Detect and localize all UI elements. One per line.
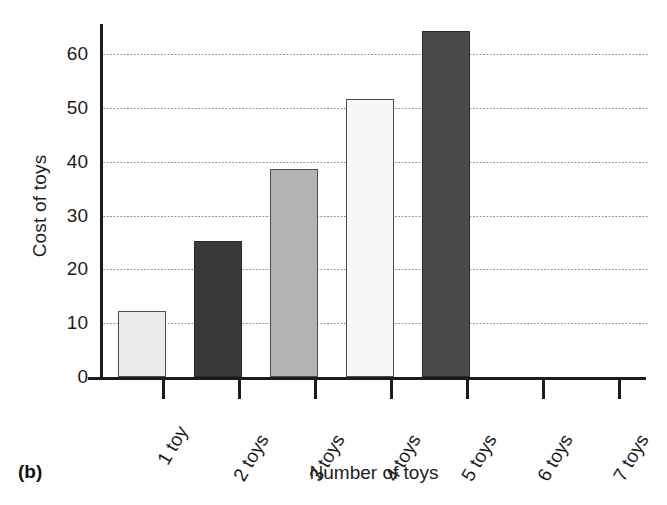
x-tick-3 [390,377,393,399]
y-tick-label-0: 0 [44,367,88,386]
x-tick-0 [162,377,165,399]
gridline-60 [100,54,648,55]
x-tick-5 [542,377,545,399]
bar-chart-figure: Cost of toys 0102030405060 1 toy2 toys3 … [0,0,667,505]
x-tick-4 [466,377,469,399]
y-tick-label-60: 60 [44,44,88,63]
x-tick-1 [238,377,241,399]
y-axis-line [100,24,103,378]
x-tick-6 [618,377,621,399]
bar-1-toy [118,311,166,377]
y-tick-label-50: 50 [44,98,88,117]
bar-3-toys [270,169,318,377]
y-tick-label-10: 10 [44,313,88,332]
y-tick-label-20: 20 [44,259,88,278]
bar-5-toys [422,31,470,377]
panel-caption: (b) [18,461,42,483]
x-tick-2 [314,377,317,399]
x-axis-line [88,377,646,380]
y-tick-label-30: 30 [44,206,88,225]
bar-2-toys [194,241,242,377]
x-axis-title: Number of toys [100,462,648,484]
bar-4-toys [346,99,394,377]
plot-area [100,24,648,378]
y-tick-label-40: 40 [44,152,88,171]
